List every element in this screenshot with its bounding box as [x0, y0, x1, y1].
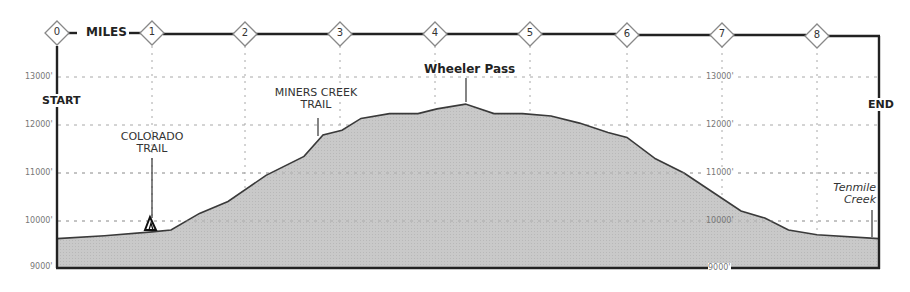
miles-axis-label: MILES: [86, 25, 127, 39]
tenmile-creek-annotation: Tenmile Creek: [814, 182, 876, 206]
mile-marker-3: 3: [330, 27, 350, 38]
left-tick-9000: 9000': [30, 262, 53, 271]
colorado-trail-annotation: COLORADO TRAIL: [114, 131, 190, 155]
elevation-area: [57, 104, 879, 268]
right-tick-10000: 10000': [706, 216, 734, 225]
mile-marker-2: 2: [235, 27, 255, 38]
mile-marker-6: 6: [617, 28, 637, 39]
right-tick-13000: 13000': [706, 72, 734, 81]
colorado-trail-line2: TRAIL: [114, 143, 190, 155]
mile-marker-0: 0: [47, 26, 67, 37]
miners-creek-line2: TRAIL: [268, 99, 364, 111]
end-label: END: [866, 98, 896, 111]
left-tick-11000: 11000': [25, 168, 53, 177]
left-tick-13000: 13000': [25, 72, 53, 81]
start-label: START: [40, 94, 83, 107]
mile-marker-1: 1: [142, 26, 162, 37]
mile-marker-4: 4: [425, 27, 445, 38]
campsite-icon: [145, 217, 156, 230]
mile-marker-8: 8: [807, 29, 827, 40]
right-tick-9000: 9000': [708, 263, 731, 272]
mile-marker-5: 5: [520, 27, 540, 38]
right-tick-11000: 11000': [706, 168, 734, 177]
left-tick-10000: 10000': [25, 216, 53, 225]
miners-creek-annotation: MINERS CREEK TRAIL: [268, 87, 364, 111]
right-tick-12000: 12000': [706, 120, 734, 129]
left-tick-12000: 12000': [25, 120, 53, 129]
tenmile-line2: Creek: [814, 194, 876, 206]
wheeler-pass-annotation: Wheeler Pass: [424, 62, 515, 76]
mile-marker-7: 7: [712, 28, 732, 39]
